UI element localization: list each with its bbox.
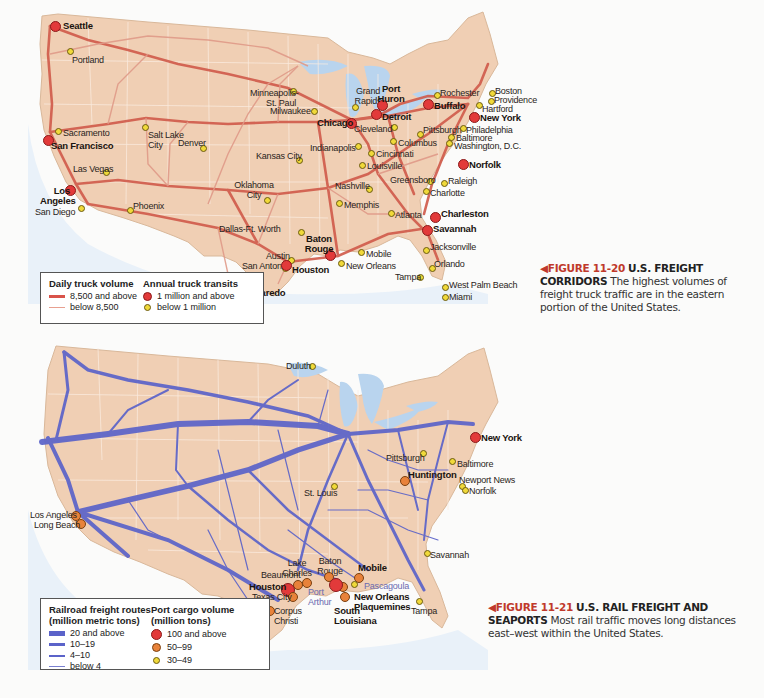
port-dot-new-york — [470, 432, 481, 443]
city-label-louisville: Louisville — [367, 161, 402, 171]
legend-heavy-route-label: 8,500 and above — [70, 291, 137, 302]
city-label-oklahoma-city: Oklahoma City — [234, 180, 274, 200]
city-label-miami: Miami — [449, 292, 472, 302]
city-label-memphis: Memphis — [344, 200, 379, 210]
city-label-tampa: Tampa — [395, 272, 421, 282]
city-label-san-diego: San Diego — [35, 207, 75, 217]
port-dot-norfolk — [462, 487, 469, 494]
city-label-seattle: Seattle — [63, 21, 93, 31]
city-label-nashville: Nashville — [335, 181, 370, 191]
city-dot-detroit — [371, 109, 382, 120]
city-dot-buffalo — [423, 99, 434, 110]
city-dot-seattle — [50, 21, 61, 32]
city-dot-atlanta — [388, 210, 395, 217]
port-label-tampa: Tampa — [411, 606, 437, 616]
port-label-south-louisiana: South Louisiana — [334, 606, 374, 626]
city-label-washington: Washington, D.C. — [454, 141, 521, 151]
legend-rail-20-label: 20 and above — [70, 628, 125, 639]
city-label-new-orleans: New Orleans — [346, 261, 396, 271]
city-dot-washington — [446, 140, 453, 147]
city-dot-charleston — [430, 212, 441, 223]
legend-port-50-dot — [152, 643, 161, 652]
caption-arrow-icon: ◀ — [540, 262, 548, 274]
city-label-dallas: Dallas-Ft. Worth — [219, 224, 281, 234]
port-label-duluth: Duluth — [286, 361, 311, 371]
port-label-norfolk: Norfolk — [469, 486, 496, 496]
port-label-long-beach: Long Beach — [34, 520, 80, 530]
rail-map-legend: Railroad freight routes (million metric … — [40, 598, 270, 670]
legend-big-city-dot — [143, 292, 152, 301]
legend-rail-below4-swatch — [49, 666, 65, 667]
port-dot-south-louisiana — [329, 578, 343, 592]
city-dot-charlotte — [423, 188, 430, 195]
legend-volume-heading: Daily truck volume — [49, 278, 137, 289]
city-dot-portland — [67, 48, 74, 55]
city-label-atlanta: Atlanta — [395, 210, 422, 220]
city-label-houston: Houston — [292, 265, 329, 275]
port-label-port-arthur: Port Arthur — [308, 587, 334, 607]
legend-rail-4-label: 4–10 — [70, 650, 90, 661]
city-label-columbus: Columbus — [398, 138, 437, 148]
city-label-los-angeles: Los Angeles — [40, 186, 70, 206]
port-label-pittsburgh: Pittsburgh — [386, 453, 425, 463]
city-dot-mobile — [358, 249, 365, 256]
port-label-corpus-christi: Corpus Christi — [274, 606, 304, 626]
port-dot-baltimore — [449, 458, 456, 465]
city-dot-indianapolis — [355, 143, 362, 150]
city-dot-savannah — [422, 225, 433, 236]
legend-port-subheading: (million tons) — [151, 615, 234, 626]
city-label-cincinnati: Cincinnati — [376, 149, 414, 159]
city-dot-sacramento — [55, 128, 62, 135]
city-label-orlando: Orlando — [434, 259, 465, 269]
city-dot-miami — [442, 294, 449, 301]
legend-big-city-label: 1 million and above — [157, 291, 235, 302]
figure-11-20-number: FIGURE 11-20 — [548, 262, 625, 274]
caption-arrow-icon: ◀ — [488, 601, 496, 613]
city-label-kansas-city: Kansas City — [256, 151, 302, 161]
city-label-milwaukee: Milwaukee — [270, 106, 311, 116]
city-label-port-huron: Port Huron — [376, 84, 406, 104]
port-label-houston: Houston — [249, 582, 286, 592]
port-dot-tampa — [416, 598, 423, 605]
legend-rail-10-label: 10–19 — [70, 639, 95, 650]
port-label-pascagoula: Pascagoula — [364, 581, 409, 591]
city-dot-milwaukee — [311, 108, 318, 115]
city-label-phoenix: Phoenix — [133, 201, 164, 211]
city-label-west-palm-beach: West Palm Beach — [449, 280, 517, 290]
city-label-minneapolis: Minneapolis-St. Paul — [250, 88, 296, 108]
legend-small-city-label: below 1 million — [157, 302, 216, 313]
legend-port-50-label: 50–99 — [167, 642, 192, 653]
city-label-las-vegas: Las Vegas — [73, 164, 113, 174]
figure-11-21-number: FIGURE 11-21 — [496, 601, 573, 613]
legend-heavy-route-swatch — [49, 295, 65, 298]
legend-rail-heading: Railroad freight routes — [49, 604, 151, 615]
city-dot-cincinnati — [368, 150, 375, 157]
city-dot-raleigh — [441, 180, 448, 187]
city-dot-west-palm-beach — [442, 284, 449, 291]
legend-port-30-dot — [153, 657, 160, 664]
legend-rail-20-swatch — [49, 631, 65, 636]
city-label-rochester: Rochester — [440, 88, 479, 98]
city-label-greensboro: Greensboro — [390, 175, 436, 185]
city-dot-houston — [281, 260, 292, 271]
city-dot-louisville — [359, 162, 366, 169]
city-label-norfolk: Norfolk — [469, 160, 501, 170]
port-label-savannah: Savannah — [430, 550, 469, 560]
city-label-charleston: Charleston — [441, 209, 489, 219]
city-label-indianapolis: Indianapolis — [310, 143, 356, 153]
figure-11-21-caption: ◀FIGURE 11-21 U.S. RAIL FREIGHT AND SEAP… — [488, 601, 760, 640]
city-dot-new-york — [469, 112, 480, 123]
port-label-los-angeles: Los Angeles — [30, 510, 77, 520]
city-dot-jacksonville — [423, 247, 430, 254]
port-label-newport-news: Newport News — [459, 475, 515, 485]
port-label-mobile: Mobile — [358, 563, 387, 573]
legend-port-100-label: 100 and above — [167, 629, 227, 640]
city-label-chicago: Chicago — [317, 118, 353, 128]
legend-rail-10-swatch — [49, 643, 65, 647]
city-label-mobile: Mobile — [366, 249, 391, 259]
port-label-new-york: New York — [481, 433, 522, 443]
legend-light-route-swatch — [49, 307, 65, 309]
legend-rail-below4-label: below 4 — [70, 661, 101, 672]
city-label-savannah: Savannah — [433, 224, 476, 234]
truck-freight-map: Seattle Portland Sacramento San Francisc… — [28, 4, 528, 304]
